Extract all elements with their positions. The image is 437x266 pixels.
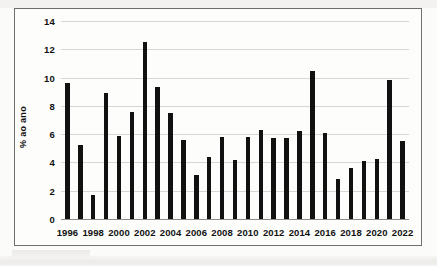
- x-tick-label-2000: 2000: [108, 227, 130, 238]
- x-tick-label-2022: 2022: [392, 227, 414, 238]
- bar-1997: [78, 145, 82, 219]
- bar-2010: [246, 137, 250, 219]
- y-axis-title: % ao ano: [18, 106, 28, 148]
- bar-2017: [336, 179, 340, 219]
- bar-2022: [400, 141, 404, 219]
- bar-series: [61, 21, 409, 219]
- x-tick-label-2010: 2010: [237, 227, 259, 238]
- bar-2011: [259, 130, 263, 219]
- x-tick-label-2016: 2016: [314, 227, 336, 238]
- x-tick-label-2006: 2006: [186, 227, 208, 238]
- bar-2008: [220, 137, 224, 219]
- bar-2006: [194, 175, 198, 219]
- scan-edge-top: [0, 0, 437, 8]
- bar-2003: [155, 87, 159, 219]
- y-tick-label-6: 6: [50, 129, 55, 140]
- bar-2019: [362, 161, 366, 219]
- bar-2005: [181, 140, 185, 219]
- x-tick-label-2002: 2002: [134, 227, 156, 238]
- bar-2004: [168, 113, 172, 219]
- scan-edge-bottom: [0, 256, 437, 266]
- bar-2014: [297, 131, 301, 219]
- x-tick-label-1996: 1996: [57, 227, 79, 238]
- bar-2021: [387, 80, 391, 219]
- x-tick-label-2012: 2012: [263, 227, 285, 238]
- y-tick-label-2: 2: [50, 185, 55, 196]
- bar-2009: [233, 160, 237, 219]
- plot-area: 02468101214: [61, 21, 409, 219]
- bar-2020: [375, 159, 379, 219]
- bar-1996: [65, 83, 69, 219]
- x-tick-label-2018: 2018: [340, 227, 362, 238]
- x-tick-label-1998: 1998: [82, 227, 104, 238]
- bar-2001: [130, 112, 134, 219]
- y-tick-label-0: 0: [50, 214, 55, 225]
- y-tick-label-14: 14: [44, 16, 55, 27]
- x-tick-label-2008: 2008: [211, 227, 233, 238]
- y-tick-label-8: 8: [50, 100, 55, 111]
- chart-plot-wrapper: % ao ano 02468101214 1996199820002002200…: [15, 9, 423, 247]
- chart-figure-frame: % ao ano 02468101214 1996199820002002200…: [14, 8, 422, 246]
- bar-2015: [310, 71, 314, 219]
- bar-1998: [91, 195, 95, 219]
- bar-2018: [349, 168, 353, 219]
- bar-2013: [284, 138, 288, 219]
- x-axis-line: [61, 219, 409, 220]
- bar-2007: [207, 157, 211, 219]
- bar-1999: [104, 93, 108, 219]
- x-axis-tick-labels: 1996199820002002200420062008201020122014…: [61, 225, 409, 245]
- y-tick-label-10: 10: [44, 72, 55, 83]
- y-tick-label-12: 12: [44, 44, 55, 55]
- x-tick-label-2020: 2020: [366, 227, 388, 238]
- x-tick-label-2004: 2004: [160, 227, 182, 238]
- bar-2000: [117, 136, 121, 219]
- bar-2016: [323, 133, 327, 219]
- bar-2012: [271, 138, 275, 219]
- y-tick-label-4: 4: [50, 157, 55, 168]
- bar-2002: [143, 42, 147, 219]
- x-tick-label-2014: 2014: [289, 227, 311, 238]
